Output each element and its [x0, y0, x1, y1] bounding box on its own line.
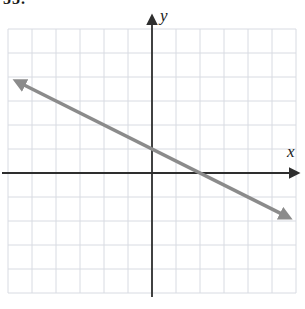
x-axis-label: x — [286, 142, 295, 161]
coordinate-plane: x y — [0, 0, 305, 309]
y-axis-label: y — [158, 6, 168, 25]
graph-figure: 55. x y — [0, 0, 305, 309]
